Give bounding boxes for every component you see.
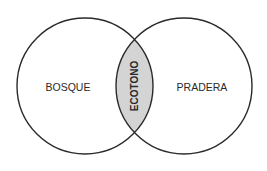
label-ecotono: ECOTONO	[129, 61, 140, 112]
venn-diagram: BOSQUE PRADERA ECOTONO	[0, 0, 267, 171]
label-bosque: BOSQUE	[46, 81, 91, 93]
label-pradera: PRADERA	[177, 81, 228, 93]
